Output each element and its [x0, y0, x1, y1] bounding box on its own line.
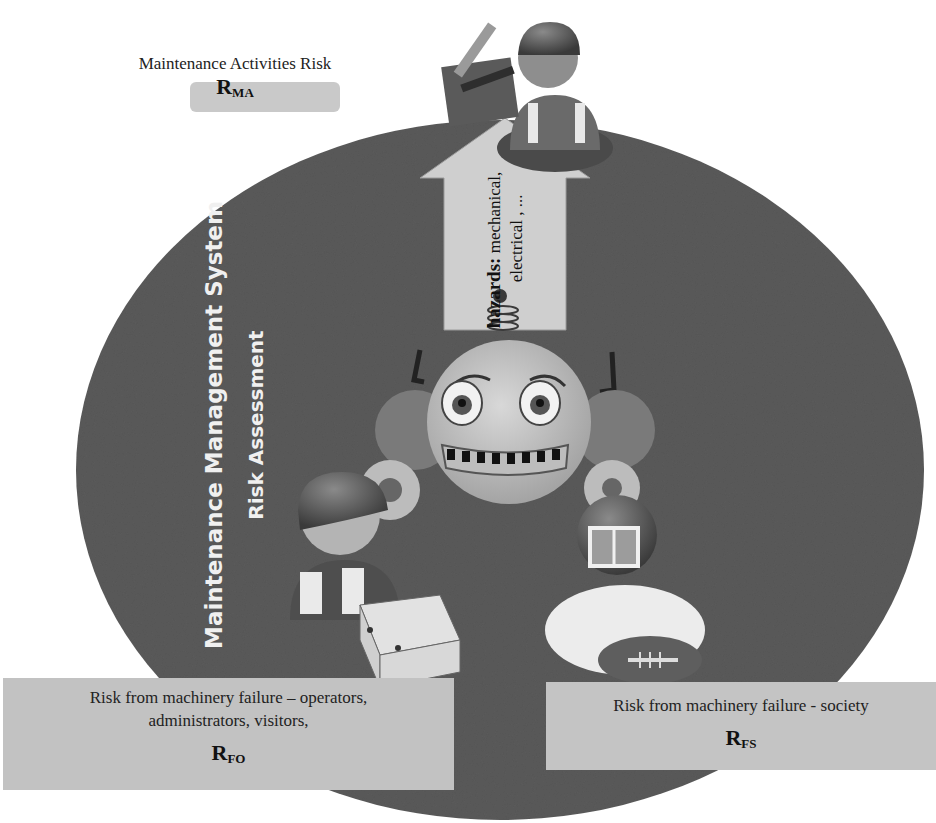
failure-society-line-1: Risk from machinery failure - society — [546, 694, 936, 717]
failure-operators-panel: Risk from machinery failure – operators,… — [3, 678, 454, 790]
failure-society-panel: Risk from machinery failure - society RF… — [546, 682, 936, 770]
maintenance-activities-risk-label: Maintenance Activities Risk RMA — [100, 54, 370, 101]
vertical-title-block: Maintenance Management System Risk Asses… — [180, 210, 290, 640]
maintenance-activities-risk-title: Maintenance Activities Risk — [100, 54, 370, 74]
failure-operators-line-2: administrators, visitors, — [3, 709, 454, 732]
failure-operators-line-1: Risk from machinery failure – operators, — [3, 686, 454, 709]
rfo-symbol: RFO — [3, 740, 454, 767]
rfs-symbol: RFS — [546, 725, 936, 752]
hazards-line-2: electrical , ... — [507, 195, 526, 283]
rma-symbol: RMA — [100, 74, 370, 101]
hazards-line-1: mechanical, — [485, 172, 504, 254]
system-title: Maintenance Management System — [193, 201, 235, 649]
hazards-label-block: hazards: mechanical, electrical , ... — [440, 170, 570, 330]
risk-assessment-subtitle: Risk Assessment — [235, 201, 277, 649]
hazards-heading: hazards: — [483, 258, 504, 329]
